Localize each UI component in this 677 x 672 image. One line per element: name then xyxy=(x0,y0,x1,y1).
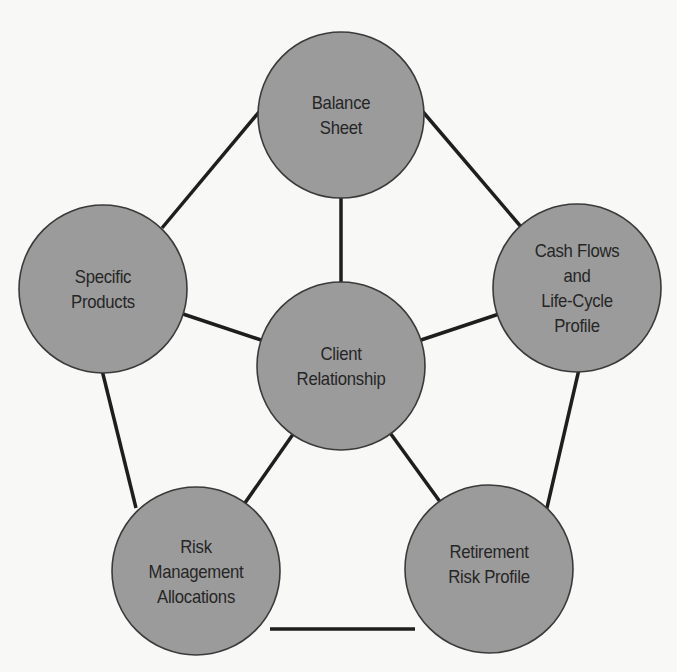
edge-specific-products-to-balance-sheet xyxy=(162,106,264,228)
spoke-center-to-cash-flows xyxy=(418,313,502,341)
label-line: Sheet xyxy=(320,115,362,140)
label-line: Relationship xyxy=(297,366,386,391)
label-balance-sheet: Balance Sheet xyxy=(271,65,412,165)
label-line: Life-Cycle xyxy=(541,288,613,313)
edge-balance-sheet-to-cash-flows xyxy=(418,106,522,228)
label-line: Risk Profile xyxy=(448,564,529,589)
label-line: Cash Flows xyxy=(535,238,620,263)
label-line: Allocations xyxy=(157,584,235,609)
edge-cash-flows-to-retirement-risk xyxy=(546,365,580,512)
label-line: Specific xyxy=(75,264,131,289)
label-specific-products: Specific Products xyxy=(33,239,174,339)
label-risk-management: Risk Management Allocations xyxy=(126,531,267,611)
label-line: Retirement xyxy=(449,539,528,564)
edge-risk-management-to-specific-products xyxy=(100,362,136,508)
label-line: and xyxy=(563,263,590,288)
label-line: Profile xyxy=(554,313,600,338)
label-line: Risk xyxy=(180,534,211,559)
label-line: Products xyxy=(71,289,135,314)
label-cash-flows: Cash Flows and Life-Cycle Profile xyxy=(507,236,648,340)
label-line: Management xyxy=(149,559,244,584)
label-line: Client xyxy=(320,341,361,366)
label-retirement-risk: Retirement Risk Profile xyxy=(419,524,560,604)
spoke-center-to-risk-management xyxy=(240,430,296,510)
spoke-center-to-retirement-risk xyxy=(388,430,446,510)
label-client-relationship: Client Relationship xyxy=(271,316,412,416)
spoke-center-to-specific-products xyxy=(180,313,264,341)
label-line: Balance xyxy=(312,90,371,115)
